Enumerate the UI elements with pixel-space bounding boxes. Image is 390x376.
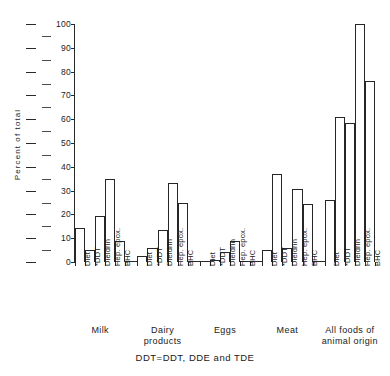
x-tick-label: Hep. epox.	[113, 228, 122, 266]
x-tick-label: BHC	[373, 250, 382, 266]
x-tick-label: Diet	[270, 252, 279, 266]
decorative-minor-tick	[42, 226, 51, 227]
x-tick-label: *DDT	[93, 247, 102, 266]
y-tick-mark	[71, 95, 75, 96]
bar	[335, 117, 345, 262]
x-tick-mark	[262, 262, 263, 266]
decorative-minor-tick	[42, 203, 51, 204]
decorative-minor-tick	[42, 179, 51, 180]
x-tick-mark	[137, 262, 138, 266]
y-tick-label: 10	[33, 234, 71, 243]
x-tick-label: Dieldrin	[290, 239, 299, 266]
x-tick-label: *DDT	[218, 247, 227, 266]
x-tick-label: *DDT	[155, 247, 164, 266]
y-tick-mark	[71, 72, 75, 73]
x-tick-label: BHC	[186, 250, 195, 266]
y-tick-label: 80	[33, 67, 71, 76]
x-tick-mark	[75, 262, 76, 266]
x-tick-mark	[200, 262, 201, 266]
decorative-minor-tick	[42, 60, 51, 61]
decorative-minor-tick	[42, 36, 51, 37]
x-tick-label: Dieldrin	[228, 239, 237, 266]
x-tick-label: Dieldrin	[353, 239, 362, 266]
x-tick-label: Dieldrin	[103, 239, 112, 266]
x-tick-label: BHC	[248, 250, 257, 266]
y-tick-label: 0	[33, 258, 71, 267]
y-tick-mark	[71, 24, 75, 25]
decorative-minor-tick	[42, 155, 51, 156]
y-tick-mark	[71, 143, 75, 144]
x-tick-label: BHC	[310, 250, 319, 266]
y-tick-label: 60	[33, 115, 71, 124]
x-tick-label: Diet	[83, 252, 92, 266]
plot-area: 0102030405060708090100	[75, 24, 375, 262]
y-tick-mark	[71, 214, 75, 215]
chart-footnote: DDT=DDT, DDE and TDE	[0, 352, 390, 363]
bars-container	[75, 24, 375, 262]
x-tick-label: BHC	[123, 250, 132, 266]
y-tick-label: 100	[33, 20, 71, 29]
decorative-minor-tick	[42, 131, 51, 132]
y-tick-mark	[71, 48, 75, 49]
chart-figure: Percent of total 0102030405060708090100 …	[0, 0, 390, 376]
y-axis-label: Percent of total	[13, 80, 22, 210]
x-tick-label: Hep. epox.	[176, 228, 185, 266]
y-tick-mark	[71, 191, 75, 192]
y-tick-mark	[71, 238, 75, 239]
bar	[355, 24, 365, 262]
x-tick-mark	[325, 262, 326, 266]
x-tick-label: Hep. epox.	[300, 228, 309, 266]
x-tick-label: *DDT	[343, 247, 352, 266]
decorative-minor-tick	[42, 107, 51, 108]
y-tick-label: 30	[33, 186, 71, 195]
y-tick-label: 90	[33, 44, 71, 53]
x-tick-label: Hep. epox.	[363, 228, 372, 266]
group-label: All foods of animal origin	[300, 325, 390, 346]
y-tick-mark	[71, 119, 75, 120]
x-tick-label: Hep. epox.	[238, 228, 247, 266]
y-tick-label: 50	[33, 139, 71, 148]
y-tick-mark	[71, 167, 75, 168]
decorative-minor-tick	[42, 84, 51, 85]
y-tick-label: 40	[33, 163, 71, 172]
x-tick-label: Diet	[208, 252, 217, 266]
x-tick-label: Diet	[145, 252, 154, 266]
x-tick-label: Diet	[332, 252, 341, 266]
x-tick-label: Dieldrin	[165, 239, 174, 266]
y-tick-label: 20	[33, 210, 71, 219]
decorative-minor-tick	[42, 250, 51, 251]
y-tick-label: 70	[33, 91, 71, 100]
x-tick-label: *DDT	[280, 247, 289, 266]
